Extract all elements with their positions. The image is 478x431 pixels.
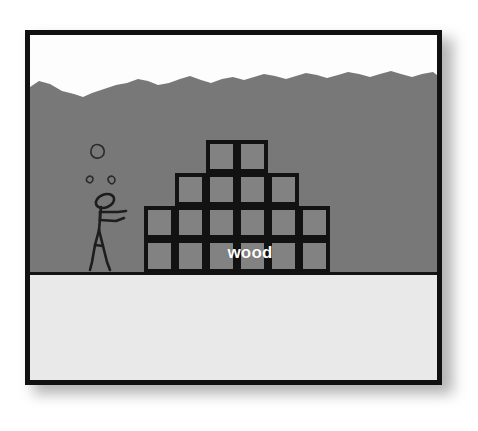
- wood-block[interactable]: [237, 206, 268, 239]
- figure-arm-lower: [100, 218, 124, 221]
- wood-block[interactable]: [268, 206, 299, 239]
- stick-figure-miner: [88, 190, 146, 275]
- figure-arm-upper: [100, 211, 126, 212]
- picture-frame: wood: [25, 30, 442, 385]
- wood-block[interactable]: [299, 206, 330, 239]
- wood-block[interactable]: [206, 173, 237, 206]
- pebble-icon-2: [86, 176, 93, 183]
- debris-particles: [84, 143, 140, 195]
- wood-label: wood: [218, 244, 282, 261]
- wood-block[interactable]: [175, 206, 206, 239]
- figure-leg-left: [90, 230, 99, 270]
- figure-hip: [95, 245, 103, 246]
- wood-block[interactable]: [268, 173, 299, 206]
- pebble-icon-3: [108, 176, 115, 184]
- wood-block[interactable]: [299, 239, 330, 273]
- wood-block[interactable]: [237, 173, 268, 206]
- figure-leg-right: [99, 230, 110, 270]
- wood-block[interactable]: [144, 206, 175, 239]
- ground-slab-layer: [30, 272, 437, 380]
- wood-block[interactable]: [144, 239, 175, 273]
- scene-canvas: wood: [0, 0, 478, 431]
- wood-block[interactable]: [175, 239, 206, 273]
- wood-block[interactable]: [237, 140, 268, 173]
- pebble-icon-1: [91, 145, 104, 159]
- frame-inner-canvas: wood: [30, 35, 437, 380]
- wood-block[interactable]: [175, 173, 206, 206]
- figure-head: [94, 191, 116, 210]
- wood-block-stack: wood: [144, 140, 334, 275]
- wood-block[interactable]: [206, 206, 237, 239]
- wood-block[interactable]: [206, 140, 237, 173]
